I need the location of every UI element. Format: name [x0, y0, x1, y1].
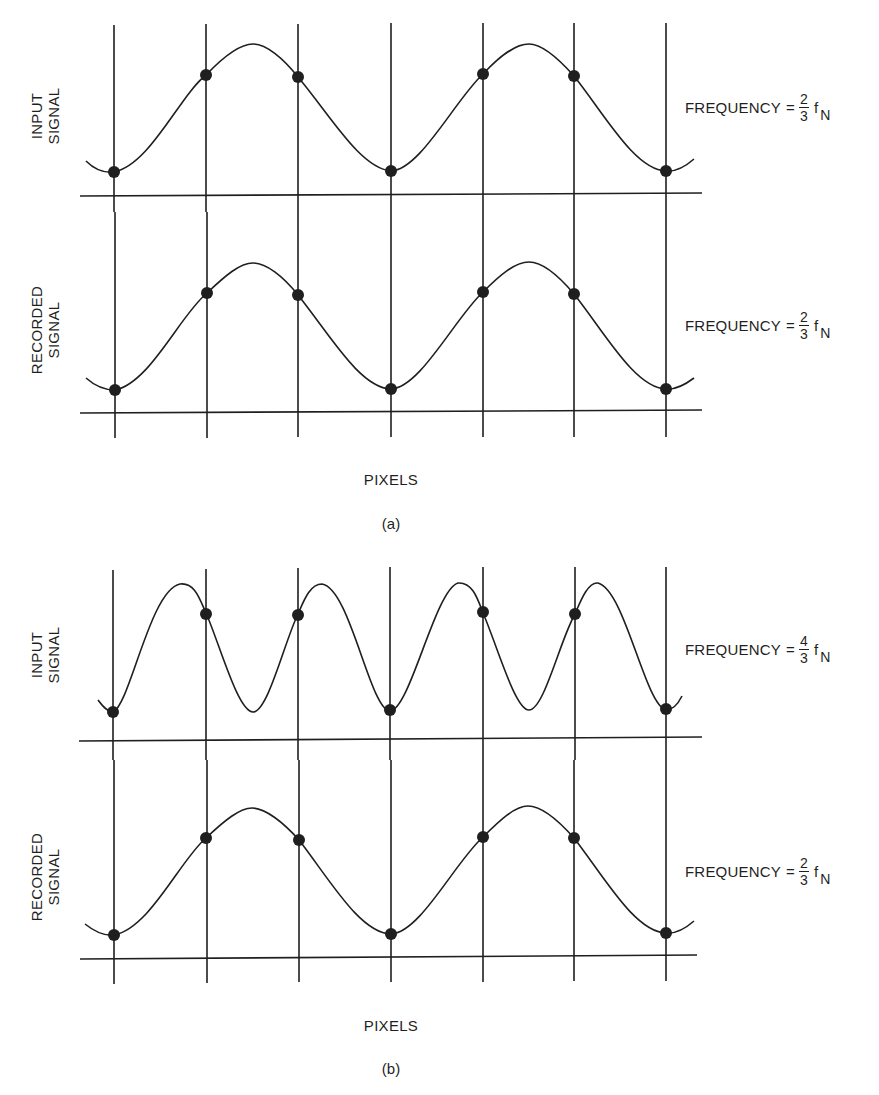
ylabel-line1: RECORDED [28, 827, 45, 927]
freq-symbol: f [814, 641, 818, 658]
freq-denominator: 3 [800, 108, 808, 123]
ylabel-line2: SIGNAL [45, 615, 62, 695]
freq-fraction: 2 3 [799, 92, 809, 123]
ylabel-a-input: INPUT SIGNAL [28, 76, 64, 156]
freq-equals: = [786, 99, 795, 116]
ylabel-b-recorded: RECORDED SIGNAL [28, 827, 64, 927]
pixel-lines-a-input [114, 23, 666, 212]
freq-subscript: N [820, 871, 830, 887]
freq-numerator: 2 [799, 92, 809, 108]
freq-symbol: f [814, 317, 818, 334]
ylabel-line1: RECORDED [28, 280, 45, 380]
curve-b-recorded [85, 806, 694, 935]
freq-equals: = [786, 317, 795, 334]
freq-equals: = [786, 641, 795, 658]
panel-b [79, 567, 702, 984]
caption-b: (b) [361, 1060, 421, 1077]
sample-dots-a-input [108, 68, 672, 178]
freq-subscript: N [820, 325, 830, 341]
pixel-lines-a-recorded [115, 212, 666, 438]
caption-a: (a) [361, 515, 421, 532]
freq-prefix: FREQUENCY [685, 641, 781, 658]
freq-fraction: 4 3 [799, 634, 809, 665]
sample-dots-b-recorded [108, 831, 672, 941]
freq-numerator: 2 [799, 310, 809, 326]
ylabel-line1: INPUT [28, 615, 45, 695]
freq-prefix: FREQUENCY [685, 99, 781, 116]
aliasing-figure [0, 0, 879, 1095]
freq-denominator: 3 [800, 326, 808, 341]
ylabel-line1: INPUT [28, 76, 45, 156]
axis-b-recorded [80, 955, 697, 959]
xlabel-b: PIXELS [331, 1017, 451, 1034]
xlabel-a: PIXELS [331, 471, 451, 488]
frequency-label-b-input: FREQUENCY = 4 3 f N [685, 634, 831, 665]
ylabel-b-input: INPUT SIGNAL [28, 615, 64, 695]
freq-prefix: FREQUENCY [685, 317, 781, 334]
freq-subscript: N [820, 107, 830, 123]
freq-denominator: 3 [800, 650, 808, 665]
freq-symbol: f [814, 99, 818, 116]
curve-a-input [86, 44, 694, 172]
ylabel-line2: SIGNAL [45, 280, 62, 380]
frequency-label-a-recorded: FREQUENCY = 2 3 f N [685, 310, 831, 341]
freq-numerator: 4 [799, 634, 809, 650]
freq-equals: = [786, 863, 795, 880]
ylabel-line2: SIGNAL [45, 76, 62, 156]
freq-subscript: N [820, 649, 830, 665]
frequency-label-b-recorded: FREQUENCY = 2 3 f N [685, 856, 831, 887]
pixel-lines-b-recorded [114, 760, 666, 984]
freq-denominator: 3 [800, 872, 808, 887]
frequency-label-a-input: FREQUENCY = 2 3 f N [685, 92, 831, 123]
ylabel-line2: SIGNAL [45, 827, 62, 927]
freq-fraction: 2 3 [799, 856, 809, 887]
freq-numerator: 2 [799, 856, 809, 872]
freq-fraction: 2 3 [799, 310, 809, 341]
ylabel-a-recorded: RECORDED SIGNAL [28, 280, 64, 380]
freq-symbol: f [814, 863, 818, 880]
freq-prefix: FREQUENCY [685, 863, 781, 880]
panel-a [80, 23, 702, 438]
curve-a-recorded [86, 262, 694, 390]
